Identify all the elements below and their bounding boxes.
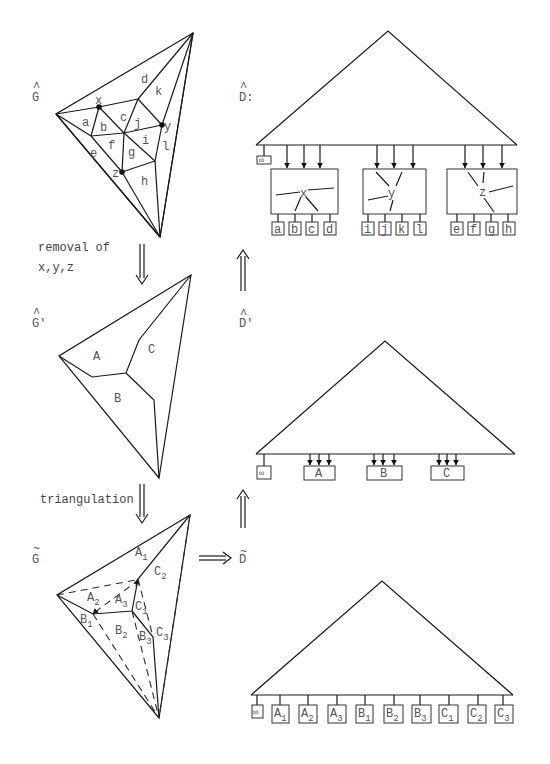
face-A: A [93, 350, 101, 364]
leaf-A2: A2 [299, 695, 317, 724]
leaf-d: d [326, 223, 333, 237]
arrow-right-g-tilde-to-d-tilde [199, 552, 231, 564]
leaf-b: b [291, 223, 298, 237]
face-a: a [82, 116, 89, 130]
leaf-C1: C1 [439, 695, 458, 724]
d-hat-label: D: [239, 91, 253, 105]
arrow-removal-down [136, 244, 148, 284]
caption-removal: removal of [38, 241, 110, 255]
g-tilde-label: G [32, 553, 39, 567]
group-y-center: y [388, 187, 395, 201]
face-h: h [141, 175, 148, 189]
face-i: i [142, 134, 149, 148]
leaf-C: C [443, 467, 450, 481]
infinity-label: ∞ [253, 708, 259, 718]
face-e: e [90, 147, 97, 161]
face-C1: C1 [135, 600, 148, 617]
arrow-up-d-tilde-to-d-prime [237, 490, 249, 528]
tree-d-tilde: ~ D ∞ A1 A2 A3 B1 B2 B3 C1 C2 C3 [239, 545, 513, 724]
leaf-a: a [274, 223, 281, 237]
infinity-label: ∞ [259, 156, 265, 166]
g-hat-label: G [32, 91, 39, 105]
diagram-canvas: ^ G x y z a b c d e f g [0, 0, 550, 764]
face-B1: B1 [80, 613, 93, 630]
leaf-A1: A1 [272, 695, 289, 724]
d-hat-prime-label: D' [239, 317, 253, 331]
face-l: l [162, 140, 169, 154]
group-x-center: x [300, 187, 307, 201]
leaf-C3: C3 [495, 695, 513, 724]
leaf-B1: B1 [356, 695, 373, 724]
infinity-label: ∞ [259, 469, 265, 479]
leaf-l: l [416, 223, 423, 237]
face-f: f [108, 139, 115, 153]
leaf-A: A [315, 467, 323, 481]
vertex-y-label: y [164, 120, 171, 134]
arrow-triangulation-down [136, 484, 148, 523]
face-C2: C2 [154, 565, 167, 582]
leaf-h: h [505, 223, 512, 237]
d-tilde-label: D [239, 553, 246, 567]
leaf-B3: B3 [412, 695, 431, 724]
vertex-z [119, 169, 125, 175]
g-hat-prime-label: G' [32, 317, 46, 331]
face-A1: A1 [135, 546, 148, 563]
caption-triangulation: triangulation [40, 493, 134, 507]
face-d: d [141, 73, 148, 87]
face-k: k [155, 85, 162, 99]
face-B2: B2 [115, 624, 128, 641]
tree-d-hat-prime: ^ D' ∞ A B C [239, 308, 515, 481]
tree-triangle [256, 31, 517, 145]
group-z-center: z [479, 186, 486, 200]
outer-triangle [56, 33, 193, 237]
leaf-B: B [380, 467, 387, 481]
caption-removal-vertices: x,y,z [38, 261, 74, 275]
face-j: j [134, 117, 141, 131]
tree-d-hat: ^ D: ∞ x a b c d y [239, 31, 517, 237]
leaf-j: j [381, 223, 388, 237]
face-c: c [120, 111, 127, 125]
leaf-f: f [470, 223, 477, 237]
face-A3: A3 [115, 593, 128, 610]
face-B: B [114, 392, 121, 406]
arrow-up-d-prime-to-d-hat [237, 250, 249, 291]
vertex-z-label: z [112, 167, 119, 181]
face-C3: C3 [156, 626, 169, 643]
leaf-k: k [398, 223, 405, 237]
leaf-e: e [453, 223, 460, 237]
face-A2: A2 [87, 591, 100, 608]
face-b: b [100, 121, 107, 135]
leaf-i: i [364, 223, 371, 237]
leaf-A3: A3 [328, 695, 346, 724]
graph-g-hat: ^ G x y z a b c d e f g [32, 33, 193, 237]
leaf-g: g [488, 223, 495, 237]
graph-g-hat-prime: ^ G' A B C [32, 275, 191, 478]
vertex-x-label: x [95, 94, 102, 108]
face-g: g [128, 146, 135, 160]
leaf-B2: B2 [384, 695, 403, 724]
face-C: C [148, 343, 155, 357]
graph-g-tilde: ~ G A1 A2 A3 B1 B2 B3 C1 C2 C3 [32, 515, 190, 718]
leaf-c: c [308, 223, 315, 237]
leaf-C2: C2 [468, 695, 486, 724]
